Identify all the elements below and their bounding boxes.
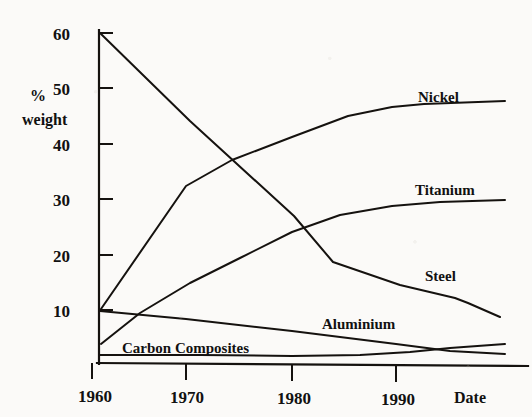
x-tick-label-1990: 1990 — [381, 390, 415, 409]
y-axis-title-line2: weight — [22, 111, 68, 129]
series-label-carbon-composites: Carbon Composites — [122, 340, 249, 356]
y-tick-label-30: 30 — [53, 191, 70, 210]
y-tick-label-40: 40 — [53, 136, 70, 155]
chart-figure: % weight 60 50 40 30 20 10 1960 1970 198… — [0, 0, 532, 417]
series-label-steel: Steel — [425, 268, 456, 284]
y-tick-label-20: 20 — [53, 247, 70, 266]
y-tick-label-50: 50 — [53, 80, 70, 99]
series-label-nickel: Nickel — [418, 89, 459, 105]
x-tick-label-1970: 1970 — [170, 388, 204, 407]
x-tick-label-1980: 1980 — [277, 389, 311, 408]
y-tick-label-10: 10 — [53, 302, 70, 321]
x-axis-title: Date — [454, 389, 486, 406]
y-axis-title-line1: % — [30, 87, 46, 104]
series-label-titanium: Titanium — [415, 182, 475, 198]
x-axis-line — [97, 363, 528, 366]
series-label-aluminium: Aluminium — [322, 316, 396, 332]
x-tick-label-1960: 1960 — [78, 387, 112, 406]
line-chart-canvas: % weight 60 50 40 30 20 10 1960 1970 198… — [0, 0, 532, 417]
y-tick-label-60: 60 — [53, 25, 70, 44]
